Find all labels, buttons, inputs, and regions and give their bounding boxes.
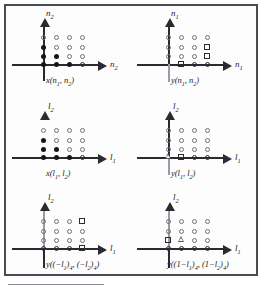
marker-open-circle <box>205 155 210 160</box>
marker-open-circle <box>192 219 197 224</box>
marker-open-circle <box>80 238 85 243</box>
marker-open-circle <box>54 238 59 243</box>
horizontal-axis-arrowhead <box>223 245 232 255</box>
marker-filled-circle <box>41 45 46 50</box>
figure-border: n2 n2 x(n1, n2) n1 n1 <box>4 4 258 276</box>
vertical-axis-lower <box>168 64 170 82</box>
marker-open-circle <box>166 246 171 251</box>
marker-open-circle <box>192 62 197 67</box>
marker-open-circle <box>80 54 85 59</box>
panel-caption: y((−l1)4, (−l2)4) <box>46 260 99 271</box>
horizontal-axis-arrowhead <box>98 245 107 255</box>
marker-open-circle <box>166 54 171 59</box>
marker-open-circle <box>67 54 72 59</box>
marker-open-circle <box>54 219 59 224</box>
marker-filled-circle <box>67 155 72 160</box>
marker-filled-circle <box>41 54 46 59</box>
panel-y-neg-l1-neg-l2: l2 l1 y((−l1)4, (−l2)4) <box>6 190 133 280</box>
panel-caption: y((1−l1)4, (1−l2)4) <box>167 260 229 271</box>
marker-filled-circle <box>54 54 59 59</box>
marker-open-circle <box>54 128 59 133</box>
marker-filled-circle <box>41 138 46 143</box>
vertical-axis-lower <box>43 248 45 268</box>
marker-open-circle <box>205 219 210 224</box>
marker-open-circle <box>166 229 171 234</box>
marker-open-circle <box>80 35 85 40</box>
marker-open-square <box>178 154 184 160</box>
marker-open-circle <box>205 246 210 251</box>
marker-open-circle <box>67 45 72 50</box>
marker-open-circle <box>205 62 210 67</box>
marker-filled-circle <box>67 62 72 67</box>
panel-y-l1-l2: l2 l1 y(l1, l2) <box>131 99 258 189</box>
marker-filled-circle <box>41 147 46 152</box>
marker-open-circle <box>205 35 210 40</box>
panel-caption: x(l1, l2) <box>46 169 70 180</box>
marker-open-circle <box>67 128 72 133</box>
marker-open-circle <box>179 35 184 40</box>
marker-open-circle <box>41 219 46 224</box>
panel-y-one-minus-l1-one-minus-l2: l2 l1 y((1−l1)4, (1−l2)4) <box>131 190 258 280</box>
marker-open-circle <box>179 54 184 59</box>
marker-filled-circle <box>54 155 59 160</box>
marker-open-circle <box>54 35 59 40</box>
marker-open-circle <box>179 45 184 50</box>
marker-open-circle <box>205 147 210 152</box>
marker-open-circle <box>192 238 197 243</box>
marker-open-circle <box>192 35 197 40</box>
marker-open-circle <box>67 238 72 243</box>
marker-open-circle <box>54 246 59 251</box>
horizontal-axis-label: l1 <box>110 153 116 164</box>
marker-open-circle <box>192 147 197 152</box>
marker-open-circle <box>41 229 46 234</box>
horizontal-axis-label: n1 <box>235 60 243 71</box>
marker-filled-circle <box>41 155 46 160</box>
marker-open-circle <box>179 138 184 143</box>
marker-filled-circle <box>41 62 46 67</box>
marker-open-circle <box>166 138 171 143</box>
horizontal-axis-label: l1 <box>235 244 241 255</box>
marker-open-triangle <box>178 236 184 242</box>
marker-open-circle <box>80 147 85 152</box>
marker-open-circle <box>67 229 72 234</box>
horizontal-axis-arrowhead <box>223 154 232 164</box>
marker-open-circle <box>54 229 59 234</box>
marker-open-square <box>79 245 85 251</box>
marker-open-circle <box>192 138 197 143</box>
marker-open-circle <box>67 147 72 152</box>
vertical-axis-label: l2 <box>173 193 179 204</box>
marker-open-circle <box>166 147 171 152</box>
marker-open-circle <box>80 128 85 133</box>
vertical-axis-label: l2 <box>48 193 54 204</box>
marker-open-circle <box>179 219 184 224</box>
horizontal-axis-arrowhead <box>98 154 107 164</box>
marker-open-circle <box>67 138 72 143</box>
panel-y-n1-n2: n1 n1 y(n1, n2) <box>131 6 258 96</box>
vertical-axis-label: n2 <box>46 9 54 20</box>
marker-open-circle <box>80 138 85 143</box>
marker-open-circle <box>54 138 59 143</box>
marker-open-circle <box>80 155 85 160</box>
panel-x-l1-l2: l2 l1 x(l1, l2) <box>6 99 133 189</box>
horizontal-axis-label: l1 <box>110 244 116 255</box>
marker-open-circle <box>192 229 197 234</box>
vertical-axis-lower <box>168 157 170 175</box>
marker-open-square <box>204 53 210 59</box>
marker-open-circle <box>205 138 210 143</box>
marker-open-circle <box>205 229 210 234</box>
horizontal-axis-arrowhead <box>223 61 232 71</box>
marker-open-circle <box>41 238 46 243</box>
vertical-axis-label: l2 <box>173 102 179 113</box>
marker-filled-circle <box>54 62 59 67</box>
page-rule <box>8 284 104 285</box>
marker-open-circle <box>67 246 72 251</box>
marker-open-circle <box>41 35 46 40</box>
marker-open-circle <box>80 45 85 50</box>
horizontal-axis-arrowhead <box>98 61 107 71</box>
marker-open-circle <box>192 128 197 133</box>
marker-open-circle <box>41 128 46 133</box>
marker-open-circle <box>192 155 197 160</box>
marker-open-circle <box>205 238 210 243</box>
horizontal-axis-label: n2 <box>110 60 118 71</box>
panel-caption: y(l1, l2) <box>171 169 195 180</box>
